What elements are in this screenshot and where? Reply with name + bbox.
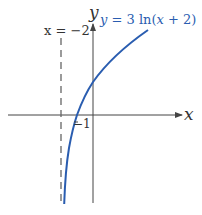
y-axis-label: y [89, 2, 99, 22]
function-label-x: x [157, 12, 164, 27]
x-axis-label: x [184, 104, 194, 124]
asymptote-label: x = −2 [44, 23, 90, 38]
function-label-end: + 2) [164, 12, 197, 27]
function-label-mid: = 3 ln( [107, 12, 156, 27]
function-label: y = 3 ln(x + 2) [100, 12, 196, 27]
tick-label-minus-1: −1 [73, 117, 91, 131]
chart-canvas [0, 0, 202, 215]
